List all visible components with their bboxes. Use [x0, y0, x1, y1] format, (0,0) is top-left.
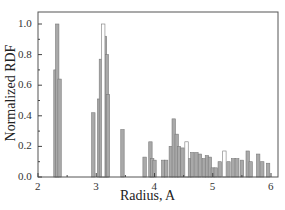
y-tick-label: 0.2 — [18, 139, 32, 151]
rdf-bar-chart: Normalized RDF Radius, A 234560.00.20.40… — [0, 0, 285, 210]
bar — [181, 148, 184, 177]
y-tick-label: 0.8 — [18, 48, 32, 60]
bar — [256, 154, 259, 177]
x-tick-label: 4 — [152, 180, 158, 192]
y-tick-label: 0.4 — [18, 109, 32, 121]
y-axis-label: Normalized RDF — [3, 38, 19, 148]
bar — [143, 157, 146, 177]
bar — [185, 142, 188, 177]
bar — [236, 159, 239, 177]
x-tick-label: 3 — [93, 180, 99, 192]
x-tick-label: 2 — [35, 180, 41, 192]
plot-area — [0, 0, 285, 210]
bar — [177, 146, 180, 177]
bar — [102, 24, 105, 177]
bar — [121, 130, 124, 177]
bar — [227, 162, 230, 177]
bar — [164, 160, 167, 177]
y-tick-label: 0.0 — [18, 170, 32, 182]
axes-frame — [38, 12, 278, 177]
x-axis-label: Radius, A — [120, 188, 175, 204]
bar — [231, 159, 234, 177]
bar — [261, 162, 264, 177]
y-tick-label: 1.0 — [18, 17, 32, 29]
bar — [218, 162, 221, 177]
bar — [195, 153, 198, 177]
y-tick-label: 0.6 — [18, 78, 32, 90]
x-tick-label: 5 — [210, 180, 216, 192]
bar — [249, 162, 252, 177]
bar — [191, 153, 194, 177]
bar — [240, 160, 243, 177]
x-tick-label: 6 — [268, 180, 274, 192]
bar — [58, 79, 61, 177]
bar — [198, 154, 201, 177]
bar — [223, 151, 226, 177]
bar — [92, 113, 95, 177]
bar — [214, 168, 217, 177]
bar — [266, 163, 269, 177]
bar — [106, 94, 109, 177]
